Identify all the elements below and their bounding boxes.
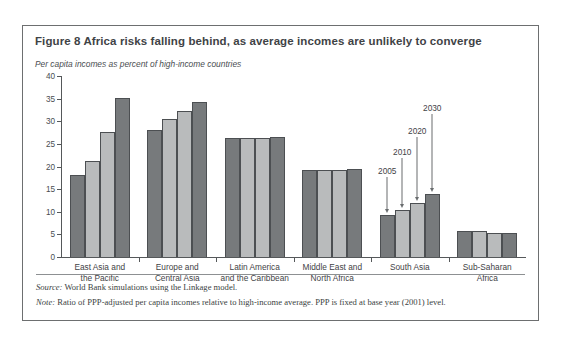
year-annotation-arrow — [402, 158, 403, 204]
y-axis-tick-label: 30 — [46, 117, 55, 126]
year-annotation-arrowhead — [430, 188, 434, 192]
bar — [332, 170, 347, 257]
y-axis-tick-label: 35 — [46, 94, 55, 103]
bar — [162, 119, 177, 257]
source-label: Source: — [36, 282, 62, 292]
category-label-line: Latin America — [221, 262, 289, 273]
bar-group: Europe andCentral Asia — [147, 76, 207, 257]
bar — [100, 132, 115, 257]
bar-group-bars — [457, 76, 517, 257]
bar — [225, 138, 240, 257]
bar-group: Middle East andNorth Africa — [302, 76, 362, 257]
bar-group-bars — [225, 76, 285, 257]
y-axis-tick — [57, 144, 61, 145]
year-annotation-arrow — [432, 114, 433, 188]
year-annotation-arrow — [417, 137, 418, 197]
y-axis-tick — [57, 257, 61, 258]
y-axis-tick-label: 5 — [50, 230, 55, 239]
bar-group-bars — [70, 76, 130, 257]
bar-group: Sub-SaharanAfrica — [457, 76, 517, 257]
x-axis-category-label: South Asia — [390, 262, 430, 273]
method-note: Note: Ratio of PPP-adjusted per capita i… — [36, 296, 525, 309]
y-axis-tick-label: 15 — [46, 185, 55, 194]
year-annotation-label: 2005 — [378, 166, 396, 176]
figure-subtitle: Per capita incomes as percent of high-in… — [35, 59, 241, 69]
bar — [380, 215, 395, 257]
category-label-line: Sub-Saharan — [463, 262, 512, 273]
source-text: World Bank simulations using the Linkage… — [62, 282, 237, 292]
y-axis-line — [61, 76, 62, 258]
notes-divider — [36, 274, 525, 275]
source-note: Source: World Bank simulations using the… — [36, 281, 525, 294]
bar — [192, 102, 207, 257]
figure-notes: Source: World Bank simulations using the… — [36, 274, 525, 311]
year-annotation-label: 2010 — [393, 147, 411, 157]
y-axis-tick-label: 20 — [46, 162, 55, 171]
bar — [255, 138, 270, 257]
category-label-line: Middle East and — [303, 262, 363, 273]
year-annotation-arrow — [387, 177, 388, 209]
bar — [347, 169, 362, 257]
y-axis-tick — [57, 76, 61, 77]
year-annotation-arrowhead — [400, 204, 404, 208]
bar-group-bars — [147, 76, 207, 257]
x-axis-tick — [139, 258, 140, 262]
bar — [457, 231, 472, 257]
bar — [177, 111, 192, 257]
bar — [302, 170, 317, 257]
y-axis-tick — [57, 212, 61, 213]
year-annotation-label: 2020 — [408, 126, 426, 136]
bar — [317, 170, 332, 257]
bar — [472, 231, 487, 257]
bar-group: East Asia andthe Pacific — [70, 76, 130, 257]
bar — [147, 130, 162, 257]
bar-group-bars — [302, 76, 362, 257]
figure-container: Figure 8 Africa risks falling behind, as… — [22, 25, 539, 321]
bar — [70, 175, 85, 257]
year-annotation-label: 2030 — [423, 103, 441, 113]
year-annotation-arrowhead — [385, 209, 389, 213]
y-axis-tick-label: 0 — [50, 253, 55, 262]
y-axis-tick — [57, 167, 61, 168]
y-axis-tick — [57, 189, 61, 190]
category-label-line: East Asia and — [74, 262, 125, 273]
figure-title: Figure 8 Africa risks falling behind, as… — [35, 35, 482, 47]
x-axis-tick — [294, 258, 295, 262]
y-axis-tick-label: 10 — [46, 207, 55, 216]
bar — [410, 203, 425, 257]
y-axis-tick — [57, 99, 61, 100]
y-axis-tick — [57, 234, 61, 235]
year-annotation-arrowhead — [415, 197, 419, 201]
bar-group: Latin Americaand the Caribbean — [225, 76, 285, 257]
bar — [487, 233, 502, 257]
y-axis-tick-label: 25 — [46, 139, 55, 148]
bar — [502, 233, 517, 257]
y-axis-tick-label: 40 — [46, 72, 55, 81]
bar — [425, 194, 440, 257]
bar — [395, 210, 410, 257]
note-text: Ratio of PPP-adjusted per capita incomes… — [55, 297, 446, 307]
note-label: Note: — [36, 297, 55, 307]
y-axis-tick — [57, 121, 61, 122]
bar — [240, 138, 255, 257]
category-label-line: Europe and — [155, 262, 200, 273]
category-label-line: South Asia — [390, 262, 430, 273]
bar — [115, 98, 130, 257]
x-axis-tick — [371, 258, 372, 262]
chart-plot-area: 0510152025303540 East Asia andthe Pacifi… — [61, 76, 526, 258]
bar-group: 2005201020202030South Asia — [380, 76, 440, 257]
x-axis-tick — [216, 258, 217, 262]
x-axis-tick — [449, 258, 450, 262]
bar — [85, 161, 100, 257]
bar — [270, 137, 285, 257]
